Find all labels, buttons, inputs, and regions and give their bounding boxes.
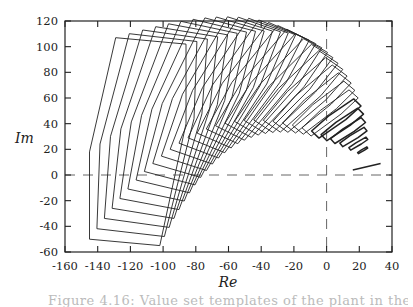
y-tick-label: -20 [39,194,58,208]
x-tick-label: 40 [385,259,400,273]
y-tick-label: 120 [36,14,58,28]
value-set-polygon [353,163,381,170]
value-set-polygon [244,44,333,133]
y-tick-label: 20 [43,142,58,156]
plot-frame [65,21,392,252]
x-tick-label: -40 [252,259,271,273]
y-tick-labels: -60-40-20020406080100120 [36,14,58,259]
x-tick-label: 20 [352,259,367,273]
value-set-polygon [90,38,187,246]
polygon-series [90,17,381,246]
axis-ticks [65,21,392,252]
value-set-polygon [170,17,280,164]
y-tick-label: -40 [39,219,58,233]
y-tick-label: -60 [39,245,58,259]
x-tick-label: -20 [285,259,304,273]
y-tick-label: 100 [36,40,58,54]
figure-caption: Figure 4.16: Value set templates of the … [48,293,408,307]
x-tick-label: -100 [150,259,176,273]
y-tick-label: 60 [43,91,58,105]
value-set-polygon [128,21,237,201]
value-set-polygon [358,147,368,154]
x-tick-label: -140 [85,259,111,273]
x-tick-label: -60 [219,259,238,273]
y-tick-label: 80 [43,65,58,79]
y-tick-label: 0 [51,168,58,182]
reference-lines [65,21,392,252]
y-tick-label: 40 [43,117,58,131]
y-axis-label: Im [14,130,34,146]
x-axis-label: Re [218,274,238,290]
x-tick-labels: -160-140-120-100-80-60-40-2002040 [52,259,399,273]
x-tick-label: 0 [323,259,330,273]
x-tick-label: -120 [117,259,143,273]
x-tick-label: -80 [187,259,206,273]
x-tick-label: -160 [52,259,78,273]
